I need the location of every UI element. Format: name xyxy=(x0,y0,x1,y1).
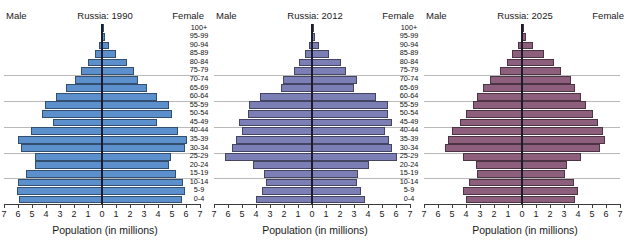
panel-title: Russia: 2025 xyxy=(470,10,580,21)
bar-female xyxy=(522,196,575,204)
bar-female xyxy=(102,76,138,84)
x-tick-labels: 765432101234567 xyxy=(4,209,200,221)
bar-female xyxy=(102,153,171,161)
female-side-label: Female xyxy=(370,10,414,21)
axis-tick xyxy=(256,204,257,208)
bar-female xyxy=(522,170,565,178)
bar-female xyxy=(312,119,392,127)
axis-tick xyxy=(242,204,243,208)
x-axis-label: Population (in millions) xyxy=(0,224,210,236)
x-tick-label: 7 xyxy=(612,209,628,219)
axis-tick xyxy=(354,204,355,208)
bar-male xyxy=(75,76,102,84)
bar-female xyxy=(522,136,605,144)
bar-male xyxy=(477,170,522,178)
axis-tick xyxy=(508,204,509,208)
axis-tick xyxy=(480,204,481,208)
axis-tick xyxy=(466,204,467,208)
axis-tick xyxy=(88,204,89,208)
bar-female xyxy=(102,101,169,109)
bar-male xyxy=(477,93,522,101)
bar-male xyxy=(248,110,312,118)
bar-male xyxy=(242,127,312,135)
axis-tick xyxy=(438,204,439,208)
bar-female xyxy=(312,196,365,204)
panel-title: Russia: 2012 xyxy=(260,10,370,21)
panel-header: MaleRussia: 1990Female xyxy=(0,8,210,22)
bar-male xyxy=(299,59,312,67)
axis-tick xyxy=(396,204,397,208)
panel-title: Russia: 1990 xyxy=(50,10,160,21)
bar-female xyxy=(102,110,172,118)
axis-tick xyxy=(32,204,33,208)
bar-female xyxy=(312,101,388,109)
bar-female xyxy=(102,119,157,127)
bar-male xyxy=(18,179,102,187)
bar-female xyxy=(102,50,116,58)
plot-area xyxy=(424,24,620,204)
bar-female xyxy=(102,170,176,178)
axis-tick xyxy=(550,204,551,208)
bar-male xyxy=(262,187,312,195)
bar-male xyxy=(507,59,522,67)
bar-female xyxy=(102,144,185,152)
axis-tick xyxy=(536,204,537,208)
axis-tick xyxy=(284,204,285,208)
bar-female xyxy=(312,187,361,195)
bar-male xyxy=(452,127,522,135)
female-side-label: Female xyxy=(580,10,624,21)
bar-male xyxy=(232,144,312,152)
bar-male xyxy=(463,187,522,195)
bar-female xyxy=(102,93,157,101)
axis-tick xyxy=(172,204,173,208)
axis-tick xyxy=(606,204,607,208)
axis-tick xyxy=(74,204,75,208)
bar-male xyxy=(225,153,312,161)
bar-male xyxy=(236,136,312,144)
bar-female xyxy=(312,179,357,187)
bar-male xyxy=(463,153,522,161)
bar-male xyxy=(469,179,522,187)
bar-female xyxy=(312,84,354,92)
axis-tick xyxy=(214,204,215,208)
bar-female xyxy=(102,127,178,135)
axis-tick xyxy=(186,204,187,208)
bar-male xyxy=(281,84,312,92)
bar-female xyxy=(522,42,533,50)
bar-female xyxy=(522,76,571,84)
panel-header: MaleRussia: 2025Female xyxy=(420,8,630,22)
bar-male xyxy=(256,196,312,204)
bar-male xyxy=(466,110,522,118)
x-tick-labels: 765432101234567 xyxy=(424,209,620,221)
bar-female xyxy=(312,76,357,84)
bar-male xyxy=(448,136,522,144)
bar-female xyxy=(312,67,346,75)
bar-male xyxy=(264,170,312,178)
axis-tick xyxy=(578,204,579,208)
bar-male xyxy=(56,93,102,101)
bar-female xyxy=(522,93,581,101)
axis-tick xyxy=(144,204,145,208)
bar-female xyxy=(522,161,567,169)
axis-tick xyxy=(60,204,61,208)
axis-tick xyxy=(620,204,621,208)
bar-female xyxy=(522,101,586,109)
plot-area xyxy=(214,24,410,204)
axis-tick xyxy=(410,204,411,208)
bar-male xyxy=(294,67,312,75)
axis-tick xyxy=(228,204,229,208)
bar-female xyxy=(522,187,578,195)
x-tick-labels: 765432101234567 xyxy=(214,209,410,221)
bar-female xyxy=(522,59,554,67)
center-axis-line xyxy=(101,24,103,204)
bar-female xyxy=(102,196,182,204)
bar-female xyxy=(522,119,598,127)
pyramid-panel-3: MaleRussia: 2025Female765432101234567Pop… xyxy=(420,0,630,246)
bar-male xyxy=(18,136,102,144)
bar-male xyxy=(66,84,102,92)
axis-tick xyxy=(326,204,327,208)
axis-tick xyxy=(200,204,201,208)
bar-male xyxy=(460,119,522,127)
bar-male xyxy=(35,161,102,169)
bar-male xyxy=(490,76,522,84)
